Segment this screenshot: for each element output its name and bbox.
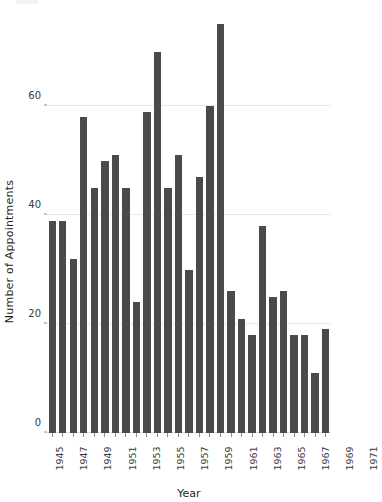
x-tick-mark-1964 (252, 433, 253, 437)
x-tick-mark-1962 (231, 433, 232, 437)
bar-1953 (133, 302, 140, 433)
x-tick-label-1961: 1961 (247, 446, 258, 470)
x-tick-mark-1951 (115, 433, 116, 437)
bar-1950 (101, 161, 108, 433)
x-tick-label-1955: 1955 (175, 446, 186, 470)
bar-1948 (80, 117, 87, 433)
x-tick-slot (257, 433, 268, 438)
bar-1955 (154, 52, 161, 433)
x-tick-slot (310, 433, 321, 438)
x-tick-label-1965: 1965 (295, 446, 306, 470)
x-tick-label-1951: 1951 (126, 446, 137, 470)
bar-slot (163, 8, 174, 433)
y-axis-title: Number of Appointments (2, 0, 18, 502)
x-label-slot: 1963 (265, 441, 289, 479)
x-label-slot: 1953 (144, 441, 168, 479)
x-tick-mark-1970 (315, 433, 316, 437)
bar-1952 (122, 188, 129, 433)
x-tick-slot (89, 433, 100, 438)
bar-slot (247, 8, 258, 433)
bar-slot (79, 8, 90, 433)
x-tick-label-1947: 1947 (78, 446, 89, 470)
clipped-top-artifact (16, 0, 38, 4)
bar-1962 (227, 291, 234, 433)
bar-slot (320, 8, 331, 433)
bar-slot (194, 8, 205, 433)
x-tick-mark-1958 (188, 433, 189, 437)
x-tick-label-1945: 1945 (54, 446, 65, 470)
x-label-slot: 1945 (47, 441, 71, 479)
bar-1966 (269, 297, 276, 433)
x-tick-mark-1968 (294, 433, 295, 437)
x-tick-mark-1963 (241, 433, 242, 437)
x-tick-mark-1956 (167, 433, 168, 437)
x-label-slot: 1957 (192, 441, 216, 479)
bar-1963 (238, 319, 245, 433)
x-tick-label-1963: 1963 (271, 446, 282, 470)
x-label-slot: 1959 (216, 441, 240, 479)
x-axis-line (47, 433, 331, 438)
x-tick-mark-1965 (262, 433, 263, 437)
bar-slot (236, 8, 247, 433)
x-tick-slot (299, 433, 310, 438)
x-tick-slot (47, 433, 58, 438)
x-tick-slot (163, 433, 174, 438)
x-tick-mark-1966 (273, 433, 274, 437)
bar-slot (121, 8, 132, 433)
x-axis-title: Year (47, 487, 331, 500)
bar-slot (310, 8, 321, 433)
x-tick-label-1969: 1969 (344, 446, 355, 470)
x-label-slot: 1965 (289, 441, 313, 479)
x-tick-mark-1957 (178, 433, 179, 437)
bar-slot (215, 8, 226, 433)
x-axis-ticks (47, 433, 331, 438)
bar-slot (68, 8, 79, 433)
x-tick-slot (68, 433, 79, 438)
x-tick-mark-1967 (283, 433, 284, 437)
bar-slot (299, 8, 310, 433)
bar-1958 (185, 270, 192, 433)
x-tick-slot (121, 433, 132, 438)
x-tick-slot (194, 433, 205, 438)
x-label-slot: 1949 (95, 441, 119, 479)
x-tick-mark-1947 (73, 433, 74, 437)
x-axis-tick-labels: 1945194719491951195319551957195919611963… (47, 441, 331, 479)
bar-1946 (59, 221, 66, 434)
x-label-slot: 1961 (241, 441, 265, 479)
x-tick-slot (131, 433, 142, 438)
bar-slot (100, 8, 111, 433)
bar-1970 (311, 373, 318, 433)
x-label-slot: 1947 (71, 441, 95, 479)
bar-slot (110, 8, 121, 433)
y-tick-label-40: 40 (28, 199, 41, 210)
bar-1969 (301, 335, 308, 433)
x-tick-slot (278, 433, 289, 438)
x-tick-slot (289, 433, 300, 438)
bar-slot (205, 8, 216, 433)
x-label-slot: 1969 (337, 441, 361, 479)
bar-1967 (280, 291, 287, 433)
x-tick-mark-1969 (304, 433, 305, 437)
x-tick-mark-1971 (325, 433, 326, 437)
x-tick-slot (100, 433, 111, 438)
x-tick-mark-1950 (104, 433, 105, 437)
x-tick-slot (79, 433, 90, 438)
x-tick-slot (205, 433, 216, 438)
x-tick-mark-1946 (62, 433, 63, 437)
x-tick-label-1957: 1957 (199, 446, 210, 470)
x-tick-mark-1954 (146, 433, 147, 437)
bar-1954 (143, 112, 150, 433)
x-tick-slot (226, 433, 237, 438)
bar-slot (142, 8, 153, 433)
bar-1964 (248, 335, 255, 433)
bar-series (47, 8, 331, 433)
y-tick-label-20: 20 (28, 308, 41, 319)
y-tick-label-60: 60 (28, 90, 41, 101)
x-label-slot: 1971 (361, 441, 382, 479)
bar-1956 (164, 188, 171, 433)
x-label-slot: 1967 (313, 441, 337, 479)
bar-1961 (217, 24, 224, 433)
bar-slot (226, 8, 237, 433)
x-tick-slot (247, 433, 258, 438)
